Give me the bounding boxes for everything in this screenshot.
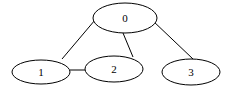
node-1: 1 [12, 60, 70, 84]
edge-0-1 [62, 20, 95, 59]
node-2: 2 [85, 56, 143, 82]
graph-diagram: 0 1 2 3 [0, 0, 225, 93]
node-1-label: 1 [38, 66, 44, 78]
node-0: 0 [93, 3, 157, 33]
node-3-label: 3 [188, 66, 194, 78]
node-2-label: 2 [111, 63, 117, 75]
edge-0-2 [123, 33, 133, 57]
edge-0-3 [152, 20, 193, 59]
node-0-label: 0 [122, 12, 128, 24]
node-3: 3 [162, 59, 220, 85]
